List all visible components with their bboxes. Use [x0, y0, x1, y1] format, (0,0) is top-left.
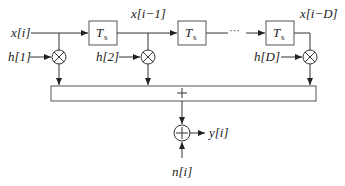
ellipsis: ···	[229, 24, 240, 36]
svg-text:T: T	[96, 25, 104, 40]
input-label: x[i]	[10, 25, 31, 40]
multiplier-D	[303, 50, 317, 64]
delayed-signal-label-D: x[i−D]	[299, 6, 338, 21]
svg-text:T: T	[273, 25, 281, 40]
output-label: y[i]	[207, 125, 229, 140]
svg-text:s: s	[281, 32, 285, 42]
tap-line	[294, 33, 310, 50]
tapped-delay-line-diagram: x[i] T s T s ··· T s x[i−1] x[i−D] h[1]	[0, 0, 345, 186]
delay-block-3: T s	[266, 21, 294, 45]
svg-text:s: s	[104, 32, 108, 42]
delay-block-1: T s	[89, 21, 117, 45]
svg-text:T: T	[185, 25, 193, 40]
summation-bar	[51, 86, 316, 101]
tap-weight-2: h[2]	[96, 49, 119, 64]
tap-weight-D: h[D]	[254, 49, 280, 64]
delay-block-2: T s	[178, 21, 206, 45]
delayed-signal-label-1: x[i−1]	[130, 6, 166, 21]
multiplier-1	[52, 50, 66, 64]
noise-adder	[174, 125, 190, 141]
tap-weight-1: h[1]	[8, 49, 31, 64]
svg-text:s: s	[193, 32, 197, 42]
noise-label: n[i]	[172, 164, 192, 179]
multiplier-2	[141, 50, 155, 64]
